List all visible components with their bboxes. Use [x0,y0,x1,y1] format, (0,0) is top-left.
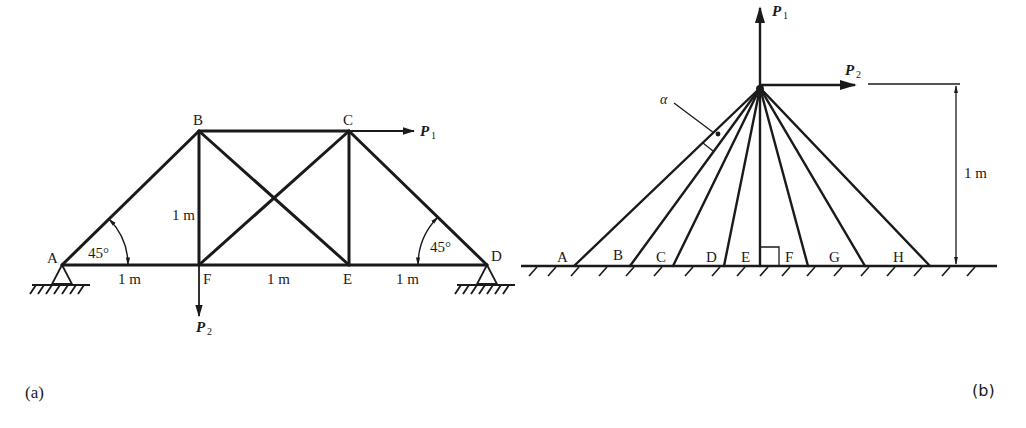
node-label-F-a: F [203,271,211,287]
right-angle-marker [760,247,779,266]
node-label-B-b: B [613,247,623,263]
pin-support-D [455,265,515,294]
node-label-B-a: B [193,112,203,128]
bar-fan-b [574,88,930,266]
svg-text:P: P [420,123,430,139]
svg-text:1: 1 [783,10,788,21]
ground-b [521,266,997,276]
force-label-P2-b: P 2 [845,62,861,80]
node-label-D-b: D [706,249,717,265]
member-AB [62,131,199,265]
svg-text:P: P [196,319,206,335]
bar-C [673,88,760,266]
bar-G [760,88,865,266]
node-label-H-b: H [893,249,904,265]
angle-label-alpha: α [660,92,668,107]
dimension-ED: 1 m [396,271,419,287]
angle-label-left: 45° [88,245,109,261]
alpha-marker [674,103,720,151]
truss-a [62,131,487,265]
svg-text:2: 2 [207,326,212,337]
node-label-D-a: D [491,248,502,264]
svg-text:1: 1 [431,130,436,141]
node-label-A-a: A [47,250,58,266]
node-label-E-b: E [741,249,750,265]
node-label-C-b: C [656,249,666,265]
caption-b: (b) [972,381,995,400]
member-CD [349,131,487,265]
svg-text:2: 2 [856,69,861,80]
dimension-BF: 1 m [172,207,195,223]
dimension-AF: 1 m [118,271,141,287]
node-label-G-b: G [829,249,840,265]
pin-support-A [30,265,90,294]
angle-arc-left [109,219,128,265]
bar-H [760,88,930,266]
force-label-P1-b: P 1 [772,3,788,21]
node-label-C-a: C [343,112,353,128]
bar-B [630,88,760,266]
bar-A [574,88,760,266]
node-label-F-b: F [785,249,793,265]
force-label-P1-a: P 1 [420,123,436,141]
svg-text:P: P [772,3,782,19]
node-label-E-a: E [343,271,352,287]
dimension-FE: 1 m [267,271,290,287]
bar-D [724,88,760,266]
svg-text:P: P [845,62,855,78]
force-label-P2-a: P 2 [196,319,212,337]
figure-canvas: A B C D F E 1 m 1 m 1 m 1 m 45° 45° P 1 … [0,0,1026,428]
height-dimension-label: 1 m [964,165,987,181]
node-label-A-b: A [557,249,568,265]
caption-a: (a) [25,383,44,402]
height-dimension [868,84,960,264]
angle-label-right: 45° [430,239,451,255]
